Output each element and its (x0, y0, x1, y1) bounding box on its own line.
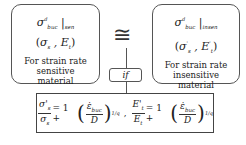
strain-rate-ratio: ε̇buc D (179, 101, 196, 126)
strain-rate-ratio: ε̇buc D (86, 101, 103, 126)
modulus-ratio: E't Et (132, 99, 145, 128)
connector-line-top (126, 48, 127, 68)
equivalence-equation-box: σ's σs = 1 + ( ε̇buc D )1/q , E't Et = 1… (36, 93, 214, 133)
separator: , (124, 108, 127, 118)
material-properties-pair: (σ's , E't) (153, 36, 239, 58)
connector-line-bottom (126, 82, 127, 93)
exponent: 1/q (205, 110, 213, 116)
stress-ratio: σ's σs (38, 99, 51, 128)
exponent: 1/q (112, 110, 120, 116)
strain-rate-insensitive-box: σdbuc |insen (σ's , E't) For strain rate… (152, 4, 240, 84)
condition-box: if (109, 68, 142, 82)
box-description: For strain rate sensitive material (12, 56, 99, 86)
equals-one-plus: = 1 + (146, 103, 171, 123)
equals-one-plus: = 1 + (52, 103, 77, 123)
box-description: For strain rate insensitive material (153, 60, 239, 90)
approximately-equal-icon: ≅ (113, 24, 131, 46)
material-properties-pair: (σs , Et) (12, 36, 99, 54)
strain-rate-sensitive-box: σdbuc |sen (σs , Et) For strain rate sen… (11, 4, 100, 84)
buckling-stress-insensitive-symbol: σdbuc |insen (153, 13, 239, 33)
buckling-stress-sensitive-symbol: σdbuc |sen (12, 13, 99, 33)
